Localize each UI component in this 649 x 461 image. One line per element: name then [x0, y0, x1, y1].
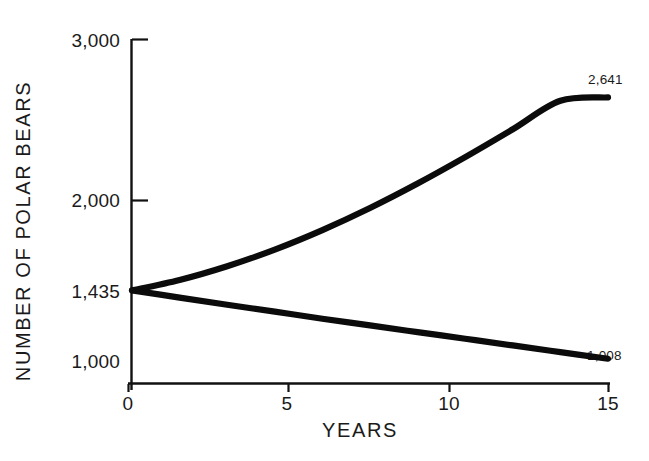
line-series-decreasing-population	[132, 290, 608, 358]
plot-area	[0, 0, 649, 461]
line-series-increasing-population	[132, 97, 608, 290]
chart-figure: NUMBER OF POLAR BEARS 3,000 2,000 1,435 …	[0, 0, 649, 461]
